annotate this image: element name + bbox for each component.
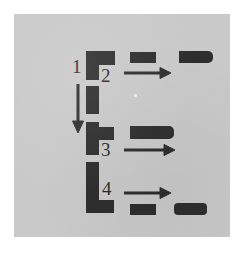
row2-right-bar <box>130 126 174 139</box>
step-number-3: 3 <box>101 140 111 159</box>
scan-speck <box>134 94 137 97</box>
figure-plate: 1 2 3 <box>14 14 230 237</box>
step-number-4: 4 <box>102 179 112 198</box>
row3-middle-bar <box>130 204 156 215</box>
row2-rightward-arrow-icon <box>124 143 176 157</box>
row1-rightward-arrow-icon <box>124 66 172 80</box>
row3-right-bar <box>174 203 207 215</box>
row1-right-bar <box>179 51 213 63</box>
row1-left-block-horizontal <box>86 51 115 65</box>
row3-rightward-arrow-icon <box>124 186 172 200</box>
row1-middle-bar <box>130 52 156 63</box>
figure-root: 1 2 3 <box>0 0 244 257</box>
row3-left-block-foot <box>86 200 114 213</box>
step-number-2: 2 <box>101 66 111 85</box>
stem-bar-1 <box>86 86 99 114</box>
step-number-1: 1 <box>72 57 82 76</box>
downward-arrow-icon <box>71 84 87 134</box>
